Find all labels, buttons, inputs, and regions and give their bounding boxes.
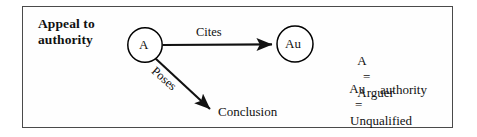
edge-label-cites: Cites	[196, 25, 222, 40]
scheme-title-label: Appeal to authority	[38, 16, 95, 48]
node-au-label: Au	[285, 36, 301, 51]
figure-container: Appeal to authority A Au Cites Poses Con…	[0, 0, 477, 137]
node-conclusion-label: Conclusion	[218, 104, 277, 119]
legend-entry-au: Au = Unqualified	[337, 65, 412, 137]
legend-definition-au-continued: authority	[380, 82, 427, 98]
legend-equals-au: =	[350, 97, 367, 112]
legend-definition-au: Unqualified	[350, 113, 412, 128]
node-a-label: A	[139, 37, 148, 52]
legend-symbol-au: Au	[349, 81, 365, 96]
edge-cites-arrow	[163, 44, 272, 45]
